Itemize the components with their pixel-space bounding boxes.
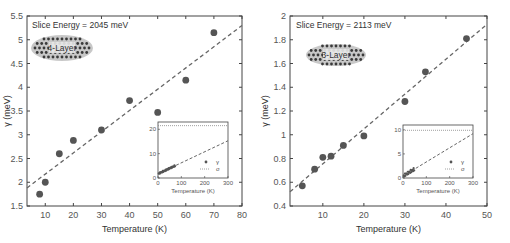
svg-text:200: 200 <box>200 180 211 186</box>
layer-lattice-illustration: 3-Layer <box>306 44 366 66</box>
svg-text:40: 40 <box>441 210 451 220</box>
data-point <box>36 191 43 198</box>
svg-text:1.4: 1.4 <box>273 82 286 92</box>
slice-energy-annotation: Slice Energy = 2113 meV <box>296 20 392 30</box>
data-point <box>311 166 318 173</box>
svg-text:20: 20 <box>68 210 78 220</box>
svg-text:50: 50 <box>482 210 492 220</box>
data-point <box>328 153 335 160</box>
svg-text:50: 50 <box>153 210 163 220</box>
data-point <box>42 179 49 186</box>
svg-text:1.2: 1.2 <box>273 106 286 116</box>
svg-text:10: 10 <box>40 210 50 220</box>
svg-text:Temperature (K): Temperature (K) <box>416 188 459 194</box>
x-axis-label: Temperature (K) <box>356 224 421 234</box>
svg-text:200: 200 <box>445 180 456 186</box>
legend-gamma: γ <box>461 159 464 165</box>
svg-text:4: 4 <box>18 82 23 92</box>
svg-text:20: 20 <box>149 126 156 132</box>
svg-text:10: 10 <box>394 127 401 133</box>
svg-text:2: 2 <box>281 11 286 21</box>
svg-text:300: 300 <box>223 180 234 186</box>
layer-lattice-illustration: 4-Layer <box>31 35 93 61</box>
svg-text:0.4: 0.4 <box>273 201 286 211</box>
svg-text:10: 10 <box>318 210 328 220</box>
data-point <box>402 98 409 105</box>
svg-text:70: 70 <box>209 210 219 220</box>
chart-panel-2: 10203040500.40.60.811.21.41.61.82Tempera… <box>260 11 492 234</box>
svg-text:4.5: 4.5 <box>10 59 23 69</box>
svg-text:10: 10 <box>149 151 156 157</box>
data-point <box>56 150 63 157</box>
svg-text:2.5: 2.5 <box>10 154 23 164</box>
data-point <box>182 77 189 84</box>
y-axis-label: γ (meV) <box>260 95 270 127</box>
svg-text:1.6: 1.6 <box>273 59 286 69</box>
chart-panel-1: 10203040506070801.522.533.544.555.5Tempe… <box>2 11 247 234</box>
data-point <box>154 109 161 116</box>
inset-chart: 01002003000510Temperature (K)γσ <box>389 121 479 196</box>
svg-text:1.8: 1.8 <box>273 35 286 45</box>
svg-text:3.5: 3.5 <box>10 106 23 116</box>
svg-text:60: 60 <box>181 210 191 220</box>
data-point <box>422 68 429 75</box>
svg-text:100: 100 <box>421 180 432 186</box>
legend-sigma: σ <box>216 166 220 172</box>
inset-chart: 010020030001020Temperature (K)γσ <box>144 118 234 196</box>
data-point <box>360 133 367 140</box>
svg-text:20: 20 <box>359 210 369 220</box>
data-point <box>299 182 306 189</box>
svg-text:100: 100 <box>176 180 187 186</box>
svg-text:300: 300 <box>468 180 479 186</box>
data-point <box>98 127 105 134</box>
figure-canvas: 10203040506070801.522.533.544.555.5Tempe… <box>0 0 510 243</box>
data-point <box>126 97 133 104</box>
layer-badge: 4-Layer <box>48 43 77 53</box>
x-axis-label: Temperature (K) <box>102 224 167 234</box>
svg-text:Temperature (K): Temperature (K) <box>171 188 214 194</box>
svg-text:1: 1 <box>281 130 286 140</box>
svg-text:30: 30 <box>96 210 106 220</box>
layer-badge: 3-Layer <box>322 50 351 60</box>
slice-energy-annotation: Slice Energy = 2045 meV <box>32 20 128 30</box>
svg-text:0.6: 0.6 <box>273 177 286 187</box>
svg-text:30: 30 <box>400 210 410 220</box>
svg-text:1.5: 1.5 <box>10 201 23 211</box>
svg-text:40: 40 <box>125 210 135 220</box>
data-point <box>70 137 77 144</box>
svg-text:5.5: 5.5 <box>10 11 23 21</box>
data-point <box>340 142 347 149</box>
svg-text:0.8: 0.8 <box>273 154 286 164</box>
y-axis-label: γ (meV) <box>2 95 12 127</box>
legend-sigma: σ <box>461 166 465 172</box>
data-point <box>319 154 326 161</box>
svg-text:5: 5 <box>18 35 23 45</box>
legend-gamma: γ <box>216 159 219 165</box>
svg-text:2: 2 <box>18 177 23 187</box>
svg-text:3: 3 <box>18 130 23 140</box>
data-point <box>463 35 470 42</box>
data-point <box>210 29 217 36</box>
svg-text:80: 80 <box>237 210 247 220</box>
